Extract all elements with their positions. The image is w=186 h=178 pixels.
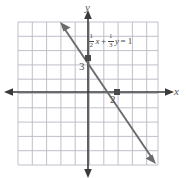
plus-operator: + <box>101 37 106 46</box>
y-intercept-marker <box>85 55 91 61</box>
axis-label-y: y <box>85 2 90 13</box>
right-side-value: 1 <box>128 37 133 46</box>
equation-label: 1 2 x + 1 3 y = 1 <box>88 33 133 49</box>
fraction-denominator: 2 <box>89 42 95 49</box>
x-intercept-label: 2 <box>110 94 116 105</box>
fraction-one-half: 1 2 <box>89 33 95 49</box>
variable-x: x <box>96 37 100 46</box>
variable-y: y <box>115 37 119 46</box>
graph-figure: x y 3 2 1 2 x + 1 3 y = 1 <box>0 0 186 178</box>
y-intercept-label: 3 <box>79 61 85 72</box>
x-axis-arrow-left <box>4 88 13 96</box>
fraction-numerator: 1 <box>108 33 114 40</box>
equals-operator: = <box>121 37 126 46</box>
axis-label-x: x <box>174 86 179 97</box>
line-arrow-upper-left <box>60 22 71 32</box>
x-axis-arrow-right <box>165 88 174 96</box>
coordinate-plane-svg <box>0 0 186 178</box>
fraction-one-third: 1 3 <box>108 33 114 49</box>
fraction-numerator: 1 <box>89 33 95 40</box>
fraction-denominator: 3 <box>108 42 114 49</box>
x-axis <box>4 88 174 96</box>
y-axis-arrow-down <box>84 169 92 178</box>
